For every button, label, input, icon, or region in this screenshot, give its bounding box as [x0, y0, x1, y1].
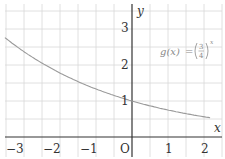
x-tick-label: 1	[165, 142, 173, 156]
exponent: x	[210, 38, 214, 45]
func-equals: =	[185, 46, 193, 57]
func-lhs: g(x)	[160, 46, 180, 57]
graph: x y O −3 −2 −1 1 2 1 2 3 g(x) = 3 4 x	[0, 0, 225, 159]
frac-numerator: 3	[199, 43, 203, 51]
origin-label: O	[120, 142, 130, 156]
y-tick-label: 2	[121, 58, 129, 72]
left-paren	[195, 43, 197, 59]
right-paren	[206, 43, 208, 59]
y-tick-label: 3	[121, 21, 129, 35]
x-axis-label: x	[214, 121, 221, 135]
y-tick-label: 1	[121, 94, 129, 108]
grid-lines	[5, 4, 222, 157]
y-axis-label: y	[136, 4, 144, 18]
x-tick-label: −3	[6, 142, 24, 156]
frac-denominator: 4	[199, 52, 204, 60]
x-tick-label: −1	[80, 142, 98, 156]
x-tick-label: 2	[201, 142, 209, 156]
x-tick-label: −2	[43, 142, 61, 156]
